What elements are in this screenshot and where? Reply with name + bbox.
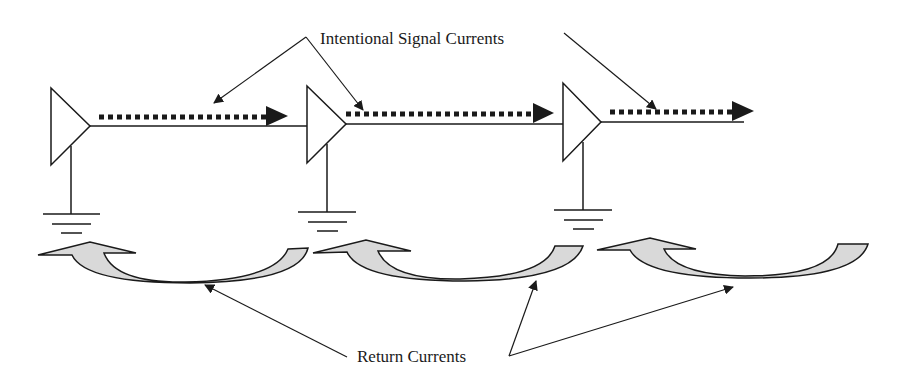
return-current-arrow-1 <box>38 242 308 283</box>
signal-arrowhead-3 <box>732 101 754 121</box>
buffer-3-icon <box>563 83 601 161</box>
stage-3 <box>554 83 868 278</box>
signal-callout: Intentional Signal Currents <box>214 29 656 110</box>
ground-3-icon <box>554 210 612 229</box>
return-callout: Return Currents <box>205 281 733 366</box>
signal-arrowhead-1 <box>266 106 288 126</box>
stage-2 <box>298 86 583 281</box>
stage-1 <box>38 88 308 283</box>
ground-1-icon <box>43 214 100 233</box>
return-current-arrow-2 <box>313 240 583 281</box>
signal-return-current-diagram: Intentional Signal Currents Return Curre… <box>0 0 909 387</box>
return-current-arrow-3 <box>597 238 868 278</box>
signal-currents-label: Intentional Signal Currents <box>320 29 504 48</box>
return-currents-label: Return Currents <box>357 347 466 366</box>
ground-2-icon <box>298 212 356 231</box>
signal-arrowhead-2 <box>533 103 554 123</box>
